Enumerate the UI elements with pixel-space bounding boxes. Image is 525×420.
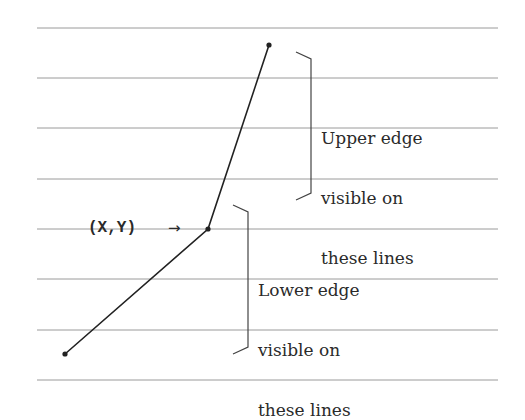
lower-edge-label: Lower edge visible on these lines — [258, 240, 360, 420]
endpoints — [62, 42, 271, 356]
top-endpoint-dot — [266, 42, 271, 47]
lower-edge-label-line-3: these lines — [258, 400, 360, 420]
vertex-arrow-icon: → — [168, 219, 181, 237]
vertex-coordinate-label: (X,Y) — [88, 219, 136, 237]
upper-edge-label-line-1: Upper edge — [321, 128, 423, 148]
upper-bracket — [296, 52, 311, 200]
lower-edge-label-line-2: visible on — [258, 340, 360, 360]
lower-edge-label-line-1: Lower edge — [258, 280, 360, 300]
vertex-dot — [205, 226, 210, 231]
upper-edge-label-line-2: visible on — [321, 188, 423, 208]
edge-polyline — [65, 45, 269, 354]
bottom-endpoint-dot — [62, 351, 67, 356]
